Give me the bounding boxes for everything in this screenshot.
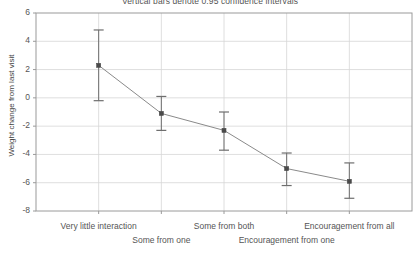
data-point-marker xyxy=(159,111,163,115)
data-point-marker xyxy=(222,128,226,132)
chart-container: Vertical bars denote 0.95 confidence int… xyxy=(0,0,420,254)
y-axis-tick-label: -8 xyxy=(8,206,30,215)
y-axis-tick-label: 2 xyxy=(8,65,30,74)
x-axis-tick-label: Some from both xyxy=(194,221,254,231)
y-axis-tick-label: -6 xyxy=(8,178,30,187)
data-point-marker xyxy=(347,179,351,183)
y-axis-tick-label: 6 xyxy=(8,8,30,17)
x-axis-tick-label: Some from one xyxy=(132,235,190,245)
plot-area xyxy=(0,0,420,254)
data-point-marker xyxy=(97,63,101,67)
y-axis-tick-label: -2 xyxy=(8,121,30,130)
data-point-marker xyxy=(285,167,289,171)
x-axis-tick-label: Very little interaction xyxy=(61,221,137,231)
y-axis-tick-label: -4 xyxy=(8,149,30,158)
x-axis-tick-label: Encouragement from one xyxy=(239,235,335,245)
y-axis-tick-label: 0 xyxy=(8,93,30,102)
y-axis-tick-label: 4 xyxy=(8,36,30,45)
x-axis-tick-label: Encouragement from all xyxy=(304,221,394,231)
